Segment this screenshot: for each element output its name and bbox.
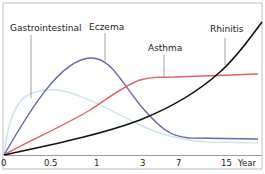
label-rhinitis: Rhinitis [210, 24, 244, 34]
label-gastrointestinal: Gastrointestinal [10, 23, 81, 33]
x-tick-7: 7 [176, 158, 181, 168]
x-tick-0-5: 0.5 [44, 158, 58, 168]
label-asthma: Asthma [148, 43, 182, 53]
x-tick-1: 1 [94, 158, 99, 168]
x-axis-unit-label: Year [237, 158, 257, 168]
x-tick-3: 3 [140, 158, 145, 168]
allergic-march-chart: Gastrointestinal Eczema Asthma Rhinitis … [0, 0, 265, 174]
x-tick-15: 15 [221, 158, 232, 168]
label-eczema: Eczema [89, 22, 124, 32]
x-tick-0: 0 [1, 158, 6, 168]
